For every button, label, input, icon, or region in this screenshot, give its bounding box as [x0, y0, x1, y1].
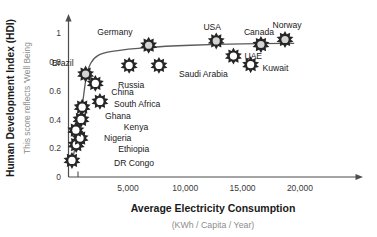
y-axis-arrow: [65, 14, 71, 22]
hdi-vs-electricity-chart: 00.20.40.60.81 5,00010,00015,00020,000 D…: [0, 0, 377, 237]
y-tick-label: 0.4: [49, 115, 61, 125]
point-label: Kenya: [124, 122, 149, 132]
x-tick-label: 15,000: [230, 183, 256, 193]
y-axis-subtitle: This score reflects 'Well Being: [22, 42, 32, 154]
point-label: Nigeria: [104, 133, 131, 143]
y-axis-title: Human Development Index (HDI): [5, 19, 16, 177]
data-point-dr-congo: DR Congo: [63, 152, 154, 169]
x-tick-label: 5,000: [117, 183, 139, 193]
marker-core: [72, 127, 79, 134]
x-tick-label: 10,000: [172, 183, 198, 193]
marker-core: [145, 42, 152, 49]
marker-core: [213, 37, 220, 44]
marker-core: [230, 52, 237, 59]
point-label: Saudi Arabia: [179, 69, 228, 79]
data-point-brazil: Brazil: [52, 58, 94, 82]
y-tick-label: 1: [56, 28, 61, 38]
point-label: DR Congo: [114, 158, 154, 168]
data-point-saudi-arabia: Saudi Arabia: [150, 57, 227, 79]
point-label: USA: [203, 22, 221, 32]
data-point-russia: Russia: [118, 57, 144, 90]
marker-core: [82, 70, 89, 77]
y-tick-label: 0.6: [49, 86, 61, 96]
data-point-canada: Canada: [244, 27, 274, 53]
y-tick-label: 0.2: [49, 143, 61, 153]
x-axis-title: Average Electricity Consumption: [131, 202, 296, 214]
point-label: Russia: [118, 80, 144, 90]
point-label: Brazil: [52, 58, 74, 68]
point-label: Kuwait: [263, 63, 289, 73]
point-label: Ghana: [105, 111, 131, 121]
marker-core: [79, 104, 86, 111]
y-tick-labels: 00.20.40.60.81: [49, 28, 61, 182]
marker-core: [126, 62, 133, 69]
marker-core: [257, 41, 264, 48]
point-label: Germany: [97, 27, 133, 37]
marker-core: [155, 62, 162, 69]
marker-core: [68, 157, 75, 164]
chart-canvas: 00.20.40.60.81 5,00010,00015,00020,000 D…: [0, 0, 377, 237]
point-label: Norway: [272, 20, 302, 30]
marker-core: [92, 80, 99, 87]
marker-core: [247, 61, 254, 68]
x-tick-label: 20,000: [287, 183, 313, 193]
data-points-layer: DR CongoEthiopiaNigeriaKenyaGhanaChinaBr…: [52, 20, 302, 168]
x-tick-labels: 5,00010,00015,00020,000: [117, 183, 313, 193]
point-label: Ethiopia: [118, 144, 149, 154]
point-label: Canada: [244, 27, 274, 37]
x-axis-arrow: [356, 174, 364, 180]
point-label: South Africa: [114, 99, 161, 109]
marker-core: [281, 36, 288, 43]
y-tick-label: 0: [56, 172, 61, 182]
marker-core: [77, 116, 84, 123]
x-axis-subtitle: (KWh / Capita / Year): [172, 220, 255, 230]
marker-core: [96, 98, 103, 105]
